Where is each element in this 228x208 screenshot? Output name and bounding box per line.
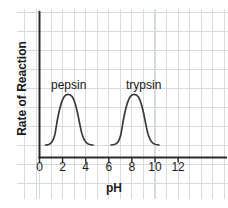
x-tick-label-12: 12 [166,161,190,174]
pepsin-label: pepsin [51,79,86,92]
x-tick-label-6: 6 [97,161,121,174]
trypsin-label: trypsin [126,79,161,92]
pepsin-curve [46,94,94,145]
x-tick-label-2: 2 [51,161,75,174]
x-tick-label-8: 8 [120,161,144,174]
chart-plot-area [0,0,228,208]
x-tick-label-4: 4 [74,161,98,174]
x-axis-title: pH [0,182,228,195]
x-tick-label-0: 0 [28,161,52,174]
x-tick-label-10: 10 [143,161,167,174]
y-axis-title: Rate of Reaction [16,19,29,159]
trypsin-curve [111,94,159,145]
enzyme-activity-chart: 0 2 4 6 8 10 12 pepsin trypsin pH Rate o… [0,0,228,208]
